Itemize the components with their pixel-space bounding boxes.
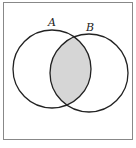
label-a: A [47, 16, 56, 29]
venn-diagram: A B [0, 0, 136, 148]
label-b: B [85, 21, 94, 34]
